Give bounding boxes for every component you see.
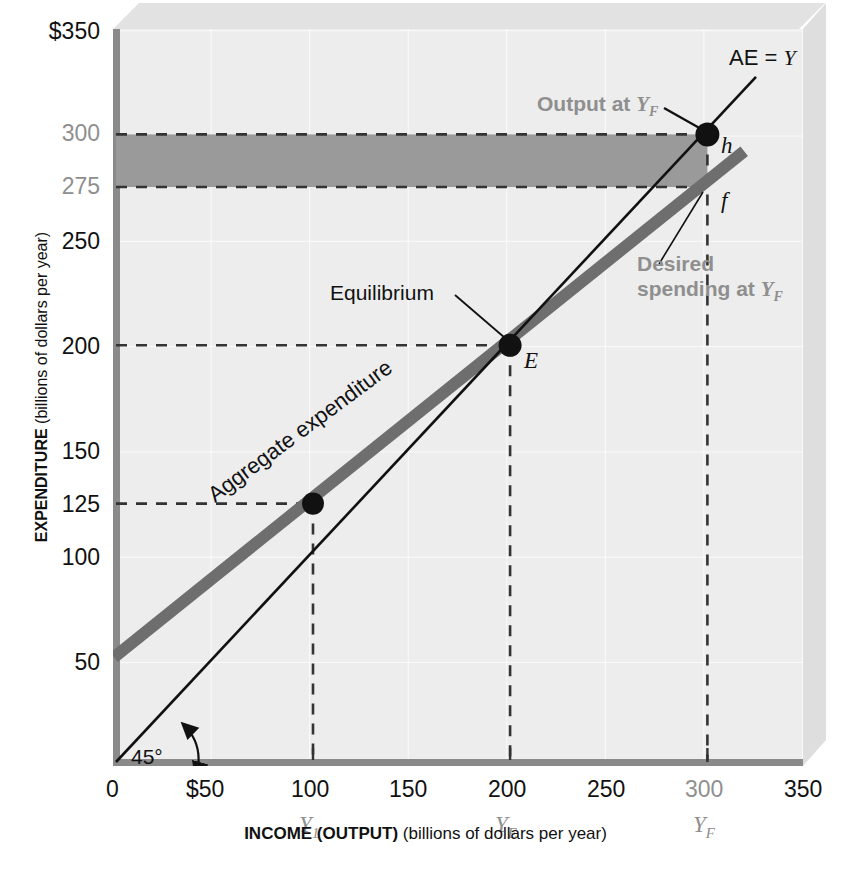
x-axis-title-rest: (billions of dollars per year) (398, 824, 607, 843)
x-tick-200: 200 (488, 776, 526, 803)
x-tick-350: 350 (784, 776, 822, 803)
point-label-f: f (721, 188, 727, 214)
y-tick-350: $350 (10, 18, 100, 45)
label-ae-equals-y: AE = Y (729, 45, 796, 71)
annotation-output-at-yf-math: Y (636, 92, 649, 116)
y-axis-title-bold: EXPENDITURE (33, 428, 50, 542)
y-axis-title-rest: (billions of dollars per year) (33, 232, 50, 429)
annotation-desired-spending-line2: spending at YF (637, 277, 783, 306)
point-label-E: E (524, 348, 538, 374)
x-axis-title-bold: INCOME (OUTPUT) (244, 824, 398, 843)
annotation-desired-spending-line1: Desired (637, 252, 783, 277)
x-tick-marks (313, 748, 707, 760)
label-45-degree: 45° (131, 745, 163, 769)
leader-output-at-yf (664, 108, 703, 130)
annotation-desired-spending: Desired spending at YF (637, 252, 783, 305)
x-tick-250: 250 (587, 776, 625, 803)
y-tick-275: 275 (10, 173, 100, 200)
x-tick-50: $50 (186, 776, 224, 803)
chart-graphics (0, 0, 851, 871)
annotation-desired-spending-math: Y (761, 277, 774, 301)
annotation-desired-spending-line2-text: spending at (637, 277, 761, 300)
point-marker-y1 (302, 493, 324, 515)
y-tick-300: 300 (10, 120, 100, 147)
leader-equilibrium (455, 295, 505, 338)
annotation-equilibrium: Equilibrium (330, 281, 434, 305)
annotation-output-at-yf: Output at YF (537, 92, 658, 121)
aggregate-expenditure-line (114, 151, 744, 657)
y-tick-150: 150 (10, 438, 100, 465)
y-axis-title: EXPENDITURE (billions of dollars per yea… (33, 197, 51, 577)
label-ae-equals-y-math: Y (783, 45, 795, 70)
annotation-output-at-yf-sub: F (649, 104, 658, 119)
y-tick-100: 100 (10, 544, 100, 571)
x-axis-title: INCOME (OUTPUT) (billions of dollars per… (0, 824, 851, 844)
y-tick-250: 250 (10, 228, 100, 255)
x-tick-0: 0 (106, 776, 119, 803)
point-marker-h (695, 122, 719, 146)
label-ae-equals-y-text: AE = (729, 45, 783, 70)
annotation-desired-spending-sub: F (774, 289, 783, 304)
y-tick-50: 50 (10, 649, 100, 676)
y-tick-200: 200 (10, 333, 100, 360)
point-label-h: h (721, 133, 733, 159)
x-tick-150: 150 (389, 776, 427, 803)
x-tick-100: 100 (291, 776, 329, 803)
shaded-band-275-300 (116, 134, 707, 187)
y-tick-125: 125 (10, 491, 100, 518)
x-tick-300: 300 (685, 776, 723, 803)
annotation-output-at-yf-text: Output at (537, 92, 636, 115)
point-marker-E (499, 334, 522, 357)
figure-aggregate-expenditure: $350 300 275 250 200 150 125 100 50 0 $5… (0, 0, 851, 871)
angle-45-arrow (183, 724, 199, 777)
